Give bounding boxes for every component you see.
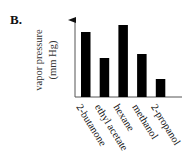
vapor-pressure-bar-chart: vapor pressure (mm Hg) 2-butanoneethyl a…	[0, 0, 196, 162]
bar-ethyl-acetate	[100, 58, 110, 97]
bars	[81, 25, 165, 97]
bar-2-butanone	[81, 32, 91, 97]
x-tick-labels: 2-butanoneethyl acetatehexanemethanol2-p…	[74, 102, 183, 153]
y-axis-label: vapor pressure (mm Hg)	[33, 29, 59, 91]
bar-methanol	[137, 54, 147, 97]
y-axis-units: (mm Hg)	[47, 40, 59, 79]
bar-2-propanol	[156, 79, 166, 97]
y-axis-title: vapor pressure	[33, 29, 44, 91]
bar-hexane	[118, 25, 128, 97]
